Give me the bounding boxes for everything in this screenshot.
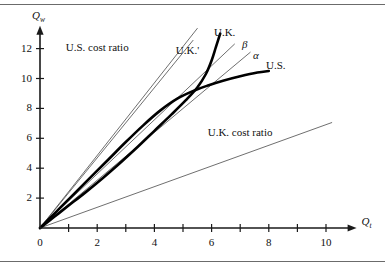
beta-label: β [242,39,247,50]
series-uk-cost-ratio [40,123,332,228]
x-tick-label-4: 4 [142,237,166,248]
x-tick-label-6: 6 [200,237,224,248]
uk-cost-ratio-label: U.K. cost ratio [208,127,273,138]
chart-figure: 246810120246810QwQtU.S. cost ratioU.K. c… [0,0,385,269]
y-tick-label-8: 8 [10,102,32,113]
us-curve-label: U.S. [266,60,286,71]
x-axis-arrowhead [348,224,357,231]
alpha-label: α [253,50,259,61]
y-axis-arrowhead [36,26,43,35]
x-axis-title: Qt [362,216,372,230]
plot-canvas [0,0,385,269]
y-axis-title-base: Q [32,9,40,21]
series-u-k [40,40,193,228]
y-tick-label-4: 4 [10,162,32,173]
series-us-cost-ratio [40,28,197,228]
x-axis-title-subscript: t [370,221,372,230]
y-tick-label-10: 10 [10,73,32,84]
y-axis-title-subscript: w [40,15,45,24]
y-axis-title: Qw [32,10,45,24]
x-tick-label-2: 2 [85,237,109,248]
x-axis-title-base: Q [362,215,370,227]
series-u-k [40,34,220,228]
axes-group [36,26,356,232]
x-tick-label-0: 0 [28,237,52,248]
y-tick-label-12: 12 [10,43,32,54]
y-tick-label-2: 2 [10,192,32,203]
x-tick-label-10: 10 [314,237,338,248]
x-tick-label-8: 8 [257,237,281,248]
us-cost-ratio-label: U.S. cost ratio [66,42,129,53]
uk-curve-label: U.K. [214,27,235,38]
uk-prime-curve-label: U.K.' [176,45,199,56]
series-u-s [40,71,269,228]
thin-line-series-group [40,28,332,228]
y-tick-label-6: 6 [10,132,32,143]
